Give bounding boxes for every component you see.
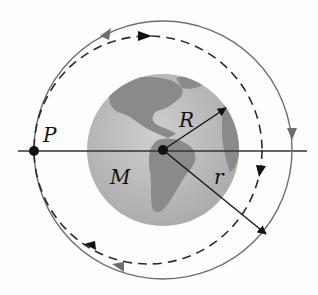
dashed-orbit-arrow-top-icon xyxy=(138,31,152,41)
orbit-diagram: P R M r xyxy=(0,0,318,295)
point-p-dot xyxy=(29,146,39,156)
dashed-orbit-arrow-right-icon xyxy=(256,165,266,177)
label-earth-radius: R xyxy=(178,108,194,132)
solid-orbit-arrow-right-icon xyxy=(287,128,297,140)
diagram-canvas: P R M r xyxy=(0,0,318,295)
label-orbit-radius: r xyxy=(214,165,225,189)
solid-orbit-arrow-top-icon xyxy=(100,28,111,40)
earth-center-dot xyxy=(158,145,168,155)
label-mass: M xyxy=(109,165,131,189)
label-p: P xyxy=(42,123,57,147)
